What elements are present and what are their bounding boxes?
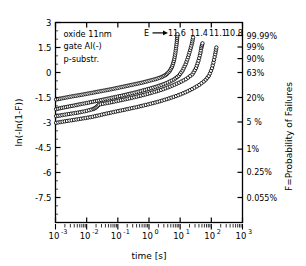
x-tick-exponent: -1 [123, 228, 129, 236]
x-tick-label: 10 [236, 231, 247, 241]
weibull-plot-figure: 10-310-210-110010110210331.50-1.5-3-4.5-… [0, 0, 306, 266]
annotation-block: oxide 11nmgate Al(-)p-substr. [64, 29, 112, 64]
x-tick-label: 10 [173, 231, 184, 241]
x-tick-exponent: 3 [248, 228, 252, 236]
y-tick-label-left: -7.5 [35, 193, 52, 203]
annotation-substrate: p-substr. [64, 54, 100, 64]
x-tick-label: 10 [204, 231, 215, 241]
field-label-3: 10.8 [225, 29, 243, 38]
series-marker [191, 36, 194, 39]
x-tick-exponent: 0 [155, 228, 159, 236]
y-tick-label-right: 0.25% [247, 168, 273, 177]
x-tick-exponent: 1 [186, 228, 190, 236]
series-marker [215, 46, 218, 49]
x-tick-exponent: -3 [61, 228, 67, 236]
x-tick-label: 10 [49, 231, 60, 241]
chart-canvas: 10-310-210-110010110210331.50-1.5-3-4.5-… [0, 0, 306, 266]
y-axis-title-right: F=Probability of Failures [284, 82, 294, 191]
y-tick-label-right: 99% [247, 43, 265, 52]
y-tick-label-left: 3 [46, 18, 51, 28]
y-tick-label-left: -4.5 [35, 143, 52, 153]
y-tick-label-left: -3 [43, 118, 51, 128]
y-tick-label-right: 63% [247, 69, 265, 78]
y-tick-label-right: 0.055% [247, 194, 278, 203]
x-axis-minor-ticks [56, 224, 243, 230]
y-tick-label-right: 5 % [247, 118, 263, 127]
annotation-gate: gate Al(-) [64, 41, 102, 51]
x-tick-label: 10 [142, 231, 153, 241]
y-tick-label-left: -1.5 [35, 93, 52, 103]
x-tick-label: 10 [111, 231, 122, 241]
y-tick-label-left: 0 [46, 68, 51, 78]
y-tick-label-left: 1.5 [38, 43, 52, 53]
y-axis-ticks-left: 31.50-1.5-3-4.5-6-7.5 [35, 18, 61, 223]
x-tick-label: 10 [80, 231, 91, 241]
series-marker [176, 32, 179, 35]
x-tick-exponent: 2 [217, 228, 221, 236]
y-axis-ticks-right: 99.99%99%90%63%20%5 %1%0.25%0.055% [238, 32, 278, 203]
x-tick-exponent: -2 [92, 228, 98, 236]
y-tick-label-right: 20% [247, 94, 265, 103]
series-marker [201, 42, 204, 45]
y-tick-label-right: 90% [247, 55, 265, 64]
annotation-oxide: oxide 11nm [64, 29, 112, 39]
y-axis-title-left: ln(-ln(1-F)) [14, 99, 24, 147]
y-tick-label-right: 1% [247, 145, 260, 154]
field-label-prefix: E [144, 29, 149, 38]
y-tick-label-left: -6 [43, 168, 51, 178]
x-axis-title: time [s] [132, 251, 167, 261]
y-tick-label-right: 99.99% [247, 32, 278, 41]
